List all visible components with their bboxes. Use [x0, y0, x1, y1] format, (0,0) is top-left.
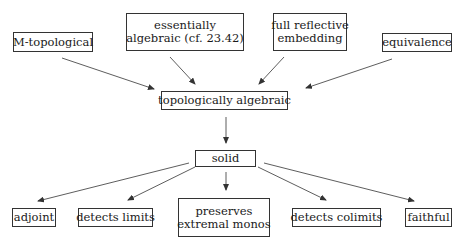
- node-full-reflective-embedding: full reflectiveembedding: [273, 13, 347, 51]
- node-label: adjoint: [14, 211, 54, 224]
- node-label: solid: [212, 152, 240, 165]
- arrow-solid-to-faithful: [264, 163, 414, 201]
- node-label: embedding: [277, 32, 342, 45]
- node-detects-limits: detects limits: [78, 208, 153, 227]
- arrow-solid-to-detects_limits: [128, 167, 195, 200]
- arrow-full_reflective_embedding-to-topologically_algebraic: [259, 57, 284, 84]
- arrow-essentially_algebraic-to-topologically_algebraic: [170, 57, 195, 84]
- node-detects-colimits: detects colimits: [292, 208, 381, 227]
- arrow-equivalence-to-topologically_algebraic: [306, 59, 392, 88]
- node-equivalence: equivalence: [382, 33, 452, 52]
- arrow-m_topological-to-topologically_algebraic: [62, 58, 154, 89]
- node-adjoint: adjoint: [12, 208, 56, 227]
- node-m-topological: M-topological: [13, 32, 93, 52]
- node-label: detects colimits: [290, 211, 382, 224]
- node-label: preserves: [195, 205, 252, 218]
- node-label: M-topological: [13, 36, 93, 49]
- node-label: faithful: [407, 211, 449, 224]
- node-preserves-extremal-monos: preservesextremal monos: [178, 198, 270, 237]
- arrow-solid-to-detects_colimits: [258, 167, 326, 200]
- node-label: topologically algebraic: [158, 94, 291, 107]
- node-faithful: faithful: [405, 208, 452, 227]
- node-essentially-algebraic: essentiallyalgebraic (cf. 23.42): [126, 13, 244, 51]
- node-label: detects limits: [76, 211, 155, 224]
- node-topologically-algebraic: topologically algebraic: [161, 91, 288, 110]
- arrow-solid-to-adjoint: [38, 163, 189, 201]
- node-label: algebraic (cf. 23.42): [126, 32, 244, 45]
- node-label: extremal monos: [177, 218, 270, 231]
- node-solid: solid: [195, 150, 256, 167]
- node-label: equivalence: [382, 36, 452, 49]
